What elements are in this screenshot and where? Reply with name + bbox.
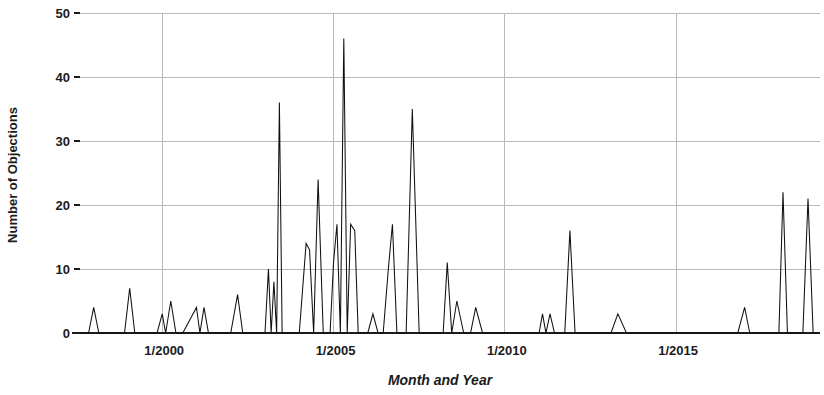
- x-tick-label: 1/2010: [487, 343, 527, 358]
- y-tick-label: 20: [56, 198, 70, 213]
- y-tick-label: 0: [63, 326, 70, 341]
- x-tick-label: 1/2000: [144, 343, 184, 358]
- chart-container: 01020304050 1/20001/20051/20101/2015 Mon…: [0, 0, 824, 395]
- objections-time-series-chart: 01020304050 1/20001/20051/20101/2015 Mon…: [0, 0, 824, 395]
- x-tick-label: 1/2015: [658, 343, 698, 358]
- x-axis-title: Month and Year: [388, 372, 494, 388]
- y-tick-label: 30: [56, 134, 70, 149]
- y-tick-label: 50: [56, 6, 70, 21]
- y-tick-label: 10: [56, 262, 70, 277]
- y-axis-title: Number of Objections: [5, 107, 20, 243]
- y-tick-label: 40: [56, 70, 70, 85]
- chart-background: [0, 0, 824, 395]
- x-tick-label: 1/2005: [316, 343, 356, 358]
